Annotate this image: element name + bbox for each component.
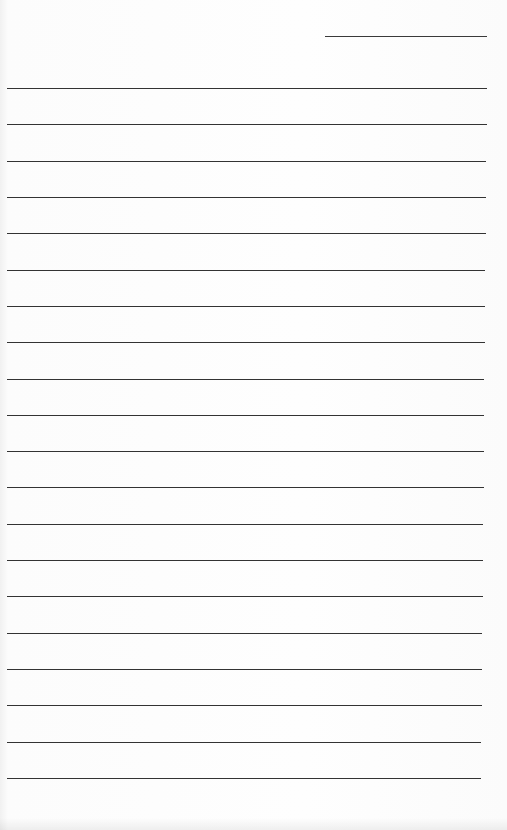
- ruled-line: [7, 124, 487, 125]
- ruled-line: [7, 560, 483, 561]
- ruled-line: [7, 88, 487, 89]
- ruled-line: [7, 197, 486, 198]
- ruled-line: [7, 742, 481, 743]
- ruled-line: [7, 633, 482, 634]
- ruled-line: [7, 778, 481, 779]
- ruled-line: [7, 270, 485, 271]
- ruled-line: [7, 415, 484, 416]
- ruled-line: [7, 233, 486, 234]
- lined-paper-page: [0, 0, 507, 830]
- page-edge-shadow: [0, 818, 507, 830]
- ruled-line: [7, 596, 483, 597]
- ruled-line: [7, 524, 483, 525]
- ruled-line: [7, 705, 482, 706]
- ruled-line: [7, 487, 484, 488]
- ruled-line: [7, 379, 484, 380]
- ruled-line: [7, 669, 482, 670]
- ruled-line: [7, 161, 486, 162]
- ruled-line: [7, 306, 485, 307]
- ruled-line: [7, 342, 485, 343]
- ruled-line: [7, 451, 484, 452]
- ruled-lines: [0, 0, 507, 830]
